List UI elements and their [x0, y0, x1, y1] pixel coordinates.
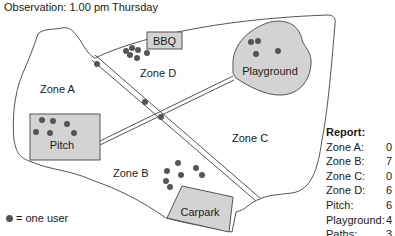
report-row-value: 0 [386, 169, 392, 184]
report-row: Zone D:6 [326, 183, 392, 198]
legend: = one user [6, 212, 68, 224]
report-row-label: Zone B: [326, 154, 365, 169]
zone-a-label: Zone A [40, 83, 76, 95]
report-row-label: Zone D: [326, 183, 365, 198]
carpark-label: Carpark [180, 206, 220, 218]
path-pitch-playground [100, 76, 234, 145]
report-row-label: Paths: [326, 227, 357, 236]
report-row: Paths:3 [326, 227, 392, 236]
report-row: Zone B:7 [326, 154, 392, 169]
zone-b-users [163, 160, 205, 190]
report-row-value: 0 [386, 140, 392, 155]
report-row-label: Zone A: [326, 140, 364, 155]
bbq-area: BBQ [147, 32, 182, 49]
zone-d-label: Zone D [140, 67, 176, 79]
pitch-area: Pitch [30, 114, 100, 160]
report-row-value: 7 [386, 154, 392, 169]
report-row: Pitch:6 [326, 198, 392, 213]
report-row-label: Zone C: [326, 169, 365, 184]
playground-area: Playground [233, 21, 311, 95]
report-row-value: 6 [386, 198, 392, 213]
report-row-label: Pitch: [326, 198, 354, 213]
report-row-value: 4 [386, 213, 392, 228]
pitch-label: Pitch [50, 139, 74, 151]
report-row-value: 6 [386, 183, 392, 198]
report-row: Zone A:0 [326, 140, 392, 155]
legend-text: = one user [16, 212, 68, 224]
report-row: Zone C:0 [326, 169, 392, 184]
zone-d-users [123, 45, 150, 61]
report-panel: Report: Zone A:0 Zone B:7 Zone C:0 Zone … [326, 125, 392, 236]
dot-icon [6, 215, 13, 222]
zone-c-label: Zone C [232, 132, 268, 144]
report-row-label: Playground: [326, 213, 385, 228]
carpark-area: Carpark [167, 186, 233, 232]
report-header: Report: [326, 125, 392, 140]
bbq-label: BBQ [153, 35, 177, 47]
playground-label: Playground [242, 65, 298, 77]
zone-b-label: Zone B [113, 167, 148, 179]
report-row: Playground:4 [326, 213, 392, 228]
report-row-value: 3 [386, 227, 392, 236]
